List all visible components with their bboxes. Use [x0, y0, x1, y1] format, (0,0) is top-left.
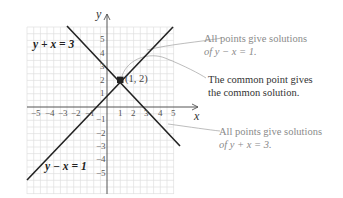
x-tick: −3 [58, 108, 68, 118]
annotation-text: of y − x = 1. [204, 45, 307, 58]
y-tick: −1 [96, 114, 106, 124]
x-tick: −4 [45, 108, 55, 118]
annotation-text: All points give solutions [219, 125, 322, 138]
y-tick: −5 [96, 168, 106, 178]
x-tick: −2 [71, 108, 81, 118]
x-tick: 2 [131, 108, 136, 118]
x-tick: −1 [85, 108, 95, 118]
annotation-text: the common solution. [208, 86, 313, 99]
x-axis-label: x [194, 109, 199, 124]
y-tick: 4 [100, 48, 105, 58]
annotation-common-point: The common point gives the common soluti… [208, 73, 313, 99]
annotation-y-plus-x: All points give solutions of y + x = 3. [219, 125, 322, 151]
x-tick: 4 [158, 108, 163, 118]
annotation-text: of y + x = 3. [219, 138, 322, 151]
y-tick: 1 [100, 88, 105, 98]
y-tick: 5 [100, 34, 105, 44]
annotation-text: All points give solutions [204, 32, 307, 45]
y-tick: −3 [96, 141, 106, 151]
equation-label-y-plus-x: y + x = 3 [33, 38, 74, 50]
y-tick: 3 [100, 61, 105, 71]
x-tick: −5 [31, 108, 41, 118]
y-axis-label: y [96, 7, 101, 22]
x-tick: 5 [171, 108, 176, 118]
equation-label-y-minus-x: y − x = 1 [45, 160, 87, 172]
annotation-y-minus-x: All points give solutions of y − x = 1. [204, 32, 307, 58]
x-tick: 1 [118, 108, 123, 118]
intersection-label: (1, 2) [125, 73, 148, 84]
annotation-text: The common point gives [208, 73, 313, 86]
x-tick: 3 [144, 108, 149, 118]
y-tick: 2 [100, 75, 105, 85]
y-tick: −2 [96, 128, 106, 138]
y-tick: −4 [96, 154, 106, 164]
